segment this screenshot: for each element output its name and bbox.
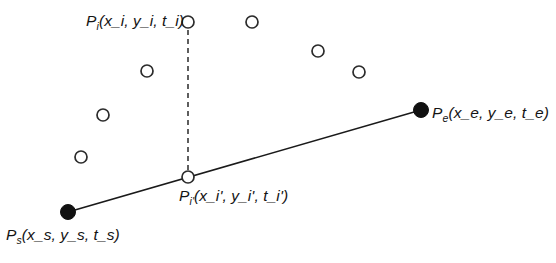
label-p-i-base: P [86,12,96,29]
label-p-s-base: P [6,226,16,243]
label-p-i-args: (x_i, y_i, t_i) [99,12,184,29]
scatter-point-circle [75,151,87,163]
label-p-s-args: (x_s, y_s, t_s) [22,226,120,243]
label-p-e-args: (x_e, y_e, t_e) [448,104,549,121]
label-p-i-prime: Pi'(x_i', y_i', t_i') [179,187,288,205]
label-p-i: Pi(x_i, y_i, t_i) [86,12,184,30]
end-point-pe-dot [414,103,429,118]
diagram-canvas [0,0,556,263]
label-p-e-subscript: e [442,112,448,124]
label-p-i-prime-subscript: i' [189,195,194,207]
scatter-point-circle [141,65,153,77]
start-point-ps-dot [61,205,76,220]
label-p-i-prime-base: P [179,187,189,204]
label-p-s: Ps(x_s, y_s, t_s) [6,226,120,244]
scatter-point-circle [353,66,365,78]
scatter-point-circle [312,45,324,57]
trajectory-projection-diagram: Pi(x_i, y_i, t_i) Pe(x_e, y_e, t_e) Ps(x… [0,0,556,263]
scatter-point-circle [97,109,109,121]
label-p-i-subscript: i [96,20,98,32]
label-p-e-base: P [432,104,442,121]
label-p-s-subscript: s [16,234,21,246]
label-p-e: Pe(x_e, y_e, t_e) [432,104,549,122]
scatter-point-circle [246,16,258,28]
projection-point-pi-prime-circle [182,171,194,183]
label-p-i-prime-args: (x_i', y_i', t_i') [194,187,288,204]
